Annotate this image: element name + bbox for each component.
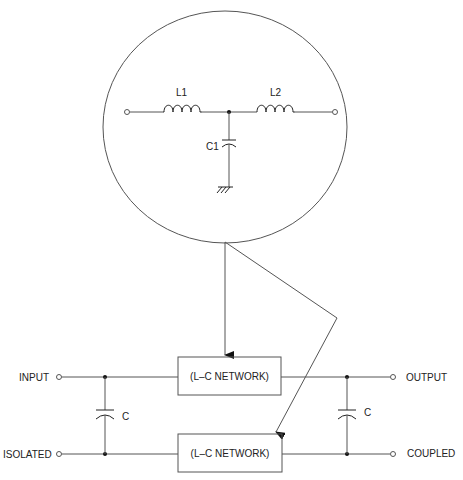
lc-network-upper-label: (L–C NETWORK) bbox=[190, 371, 269, 382]
lc-network-upper: (L–C NETWORK) bbox=[178, 357, 281, 395]
ground-icon bbox=[217, 187, 233, 193]
terminal-icon bbox=[333, 110, 338, 115]
port-isolated-label: ISOLATED bbox=[3, 449, 52, 460]
lc-network-lower: (L–C NETWORK) bbox=[178, 434, 282, 472]
port-output-label: OUTPUT bbox=[406, 372, 447, 383]
label-c-right: C bbox=[364, 407, 371, 418]
isolated-terminal-icon bbox=[57, 452, 62, 457]
label-l2: L2 bbox=[270, 87, 282, 98]
coupler-diagram: L1 L2 C1 (L–C NETWORK) (L–C NETWORK) C C bbox=[0, 0, 463, 480]
lc-network-lower-label: (L–C NETWORK) bbox=[191, 448, 270, 459]
label-l1: L1 bbox=[176, 87, 188, 98]
input-terminal-icon bbox=[57, 375, 62, 380]
label-c1: C1 bbox=[206, 141, 219, 152]
label-c-left: C bbox=[122, 411, 129, 422]
detail-circle: L1 L2 C1 bbox=[103, 11, 347, 243]
inductor-l1-icon bbox=[163, 105, 202, 112]
port-coupled-label: COUPLED bbox=[407, 448, 455, 459]
callout-pointers bbox=[225, 242, 337, 432]
coupled-terminal-icon bbox=[391, 452, 396, 457]
output-terminal-icon bbox=[391, 375, 396, 380]
inductor-l2-icon bbox=[257, 105, 295, 112]
terminal-icon bbox=[125, 110, 130, 115]
port-input-label: INPUT bbox=[19, 372, 49, 383]
